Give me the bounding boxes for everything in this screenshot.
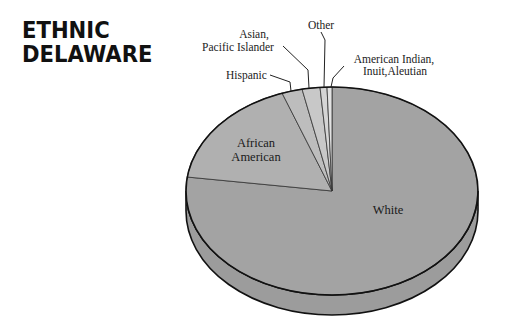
label-hispanic: Hispanic bbox=[226, 69, 267, 82]
leader-other bbox=[321, 32, 325, 87]
label-african-american-line-1: African bbox=[237, 136, 276, 150]
label-other: Other bbox=[308, 19, 334, 31]
label-asian-line-1: Asian, bbox=[239, 28, 269, 41]
pie-chart: Hispanic Asian, Pacific Islander Other A… bbox=[0, 0, 505, 331]
label-american-indian-line-2: Inuit,Aleutian bbox=[363, 65, 427, 78]
label-african-american-line-2: American bbox=[231, 150, 281, 164]
leader-lines bbox=[270, 32, 344, 91]
label-asian-line-2: Pacific Islander bbox=[202, 41, 274, 53]
leader-asian bbox=[283, 46, 309, 88]
label-white: White bbox=[373, 203, 404, 217]
leader-american-indian bbox=[331, 66, 344, 87]
leader-hispanic bbox=[270, 75, 291, 91]
